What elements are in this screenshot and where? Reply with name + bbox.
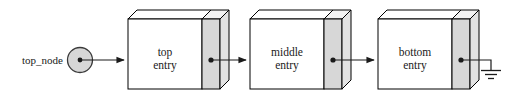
node-bottom-pointer-side-face <box>470 10 479 89</box>
head-node-label: top_node <box>22 54 63 66</box>
linked-list-diagram: top_node top entry <box>0 0 514 98</box>
node-bottom-pointer-front-face <box>452 19 470 89</box>
node-top-label-line1: top <box>158 46 173 59</box>
node-middle-pointer-side-face <box>342 10 351 89</box>
node-middle-entry: middle entry <box>250 10 351 89</box>
node-top-label-line2: entry <box>153 59 177 72</box>
diagram-canvas: top_node top entry <box>0 0 514 98</box>
node-top-body-top-face <box>128 10 211 19</box>
node-top-pointer-side-face <box>220 10 229 89</box>
node-top-pointer-front-face <box>202 19 220 89</box>
node-middle-label-line2: entry <box>275 59 299 72</box>
node-middle-body-top-face <box>250 10 333 19</box>
node-bottom-entry: bottom entry <box>378 10 479 89</box>
node-top-entry: top entry <box>128 10 229 89</box>
node-bottom-label-line2: entry <box>403 59 427 72</box>
node-bottom-label-line1: bottom <box>399 46 432 58</box>
node-middle-label-line1: middle <box>271 46 303 58</box>
node-bottom-body-top-face <box>378 10 461 19</box>
node-middle-pointer-front-face <box>324 19 342 89</box>
